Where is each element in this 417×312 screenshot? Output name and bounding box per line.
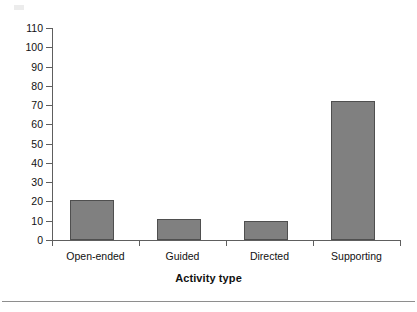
bar-chart-figure: 110 100 90 80 70 60 50 40 30 20 10 0 Ope… <box>0 0 417 312</box>
y-tick-label: 110 <box>0 23 43 34</box>
y-tick-label: 0 <box>0 235 43 246</box>
x-axis-tick <box>52 241 53 246</box>
bar-supporting[interactable] <box>331 101 375 240</box>
x-category-label-supporting: Supporting <box>313 250 400 262</box>
bar-directed[interactable] <box>244 221 288 240</box>
y-tick-label: 20 <box>0 196 43 207</box>
y-tick-label: 50 <box>0 139 43 150</box>
y-tick-label: 10 <box>0 216 43 227</box>
y-tick-label: 30 <box>0 177 43 188</box>
x-axis-title: Activity type <box>0 272 417 284</box>
y-tick-label: 40 <box>0 158 43 169</box>
y-tick-label: 60 <box>0 119 43 130</box>
y-tick-label: 70 <box>0 100 43 111</box>
x-axis-tick <box>139 241 140 246</box>
y-tick-label: 80 <box>0 81 43 92</box>
x-axis-tick <box>226 241 227 246</box>
x-category-label-open-ended: Open-ended <box>52 250 139 262</box>
y-tick-label: 100 <box>0 42 43 53</box>
bar-guided[interactable] <box>157 219 201 240</box>
y-axis-tick-labels: 110 100 90 80 70 60 50 40 30 20 10 0 <box>0 0 43 312</box>
x-category-label-guided: Guided <box>139 250 226 262</box>
x-axis-tick <box>400 241 401 246</box>
y-tick-label: 90 <box>0 62 43 73</box>
plot-area <box>52 28 400 240</box>
bar-open-ended[interactable] <box>70 200 114 240</box>
page-separator-rule <box>2 301 415 302</box>
x-axis-tick <box>313 241 314 246</box>
x-category-label-directed: Directed <box>226 250 313 262</box>
